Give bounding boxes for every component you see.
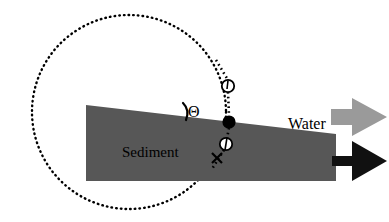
particle-trajectory-upper	[216, 60, 228, 80]
sediment-label: Sediment	[122, 145, 179, 160]
water-flow-right-arrow-icon	[331, 98, 387, 136]
open-circle-marker-icon-lower	[220, 138, 232, 151]
open-circle-marker-icon-upper	[222, 80, 234, 92]
water-label: Water	[288, 116, 326, 132]
sediment-transport-diagram: Sediment Water Θ	[0, 0, 389, 222]
filled-circle-marker-icon	[222, 115, 235, 128]
particle-trajectory-mid	[228, 92, 229, 116]
sediment-flow-right-arrow-icon	[332, 141, 387, 181]
theta-angle-label: Θ	[188, 104, 200, 120]
